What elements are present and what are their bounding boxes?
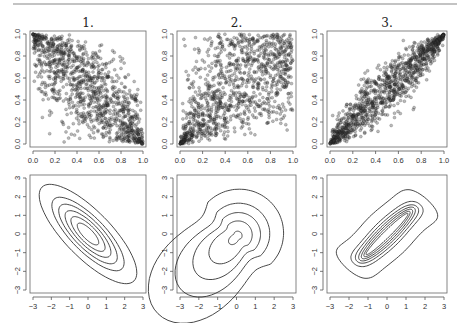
- y-tick-label: 0.0: [13, 139, 22, 149]
- y-tick-label: 0.8: [310, 51, 319, 61]
- x-tick-label: 1: [253, 302, 257, 311]
- x-tick-label: 0.8: [116, 156, 126, 165]
- x-tick-label: 0: [385, 302, 389, 311]
- x-axis: 0.00.20.40.60.81.0: [325, 151, 449, 165]
- plot-frame: [327, 175, 447, 293]
- y-tick-label: 1: [310, 213, 319, 217]
- y-tick-label: 0.8: [160, 51, 169, 61]
- y-axis: −3−2−10123: [13, 176, 26, 294]
- y-tick-label: 0.6: [160, 73, 169, 83]
- x-tick-label: 0.6: [243, 156, 253, 165]
- y-tick-label: −3: [160, 286, 169, 295]
- y-tick-label: −2: [310, 267, 319, 276]
- y-tick-label: 0.0: [310, 139, 319, 149]
- y-tick-label: 0: [13, 232, 22, 236]
- x-tick-label: 2: [272, 302, 276, 311]
- y-tick-label: 0.2: [310, 117, 319, 127]
- plot-frame: [177, 175, 296, 293]
- x-tick-label: 3: [442, 302, 446, 311]
- x-tick-label: 2: [123, 302, 127, 311]
- x-tick-label: 0: [86, 302, 90, 311]
- y-tick-label: 0.4: [310, 95, 319, 105]
- contour-lines: [39, 184, 137, 283]
- y-tick-label: −1: [13, 248, 22, 257]
- y-tick-label: −2: [160, 267, 169, 276]
- y-tick-label: −3: [13, 286, 22, 295]
- y-tick-label: 0: [160, 232, 169, 236]
- y-tick-label: −2: [13, 267, 22, 276]
- x-tick-label: 0.2: [50, 156, 60, 165]
- y-tick-label: −1: [310, 248, 319, 257]
- x-tick-label: 1.0: [288, 156, 298, 165]
- x-tick-label: 0.0: [325, 156, 335, 165]
- x-tick-label: −2: [195, 302, 204, 311]
- x-tick-label: 3: [291, 302, 295, 311]
- y-axis: 0.00.20.40.60.81.0: [160, 29, 173, 149]
- x-tick-label: 0.4: [72, 156, 82, 165]
- x-tick-label: −3: [29, 302, 38, 311]
- figure: 1.0.00.20.40.60.81.00.00.20.40.60.81.02.…: [0, 0, 466, 323]
- y-tick-label: 3: [160, 176, 169, 180]
- scatter-points: [179, 33, 295, 146]
- x-tick-label: −1: [364, 302, 373, 311]
- x-tick-label: 0.0: [28, 156, 38, 165]
- y-tick-label: 0.0: [160, 139, 169, 149]
- panel-title: 2.: [231, 16, 242, 30]
- y-tick-label: 1.0: [310, 29, 319, 39]
- y-tick-label: −3: [310, 286, 319, 295]
- x-tick-label: −2: [47, 302, 56, 311]
- x-tick-label: 3: [141, 302, 145, 311]
- x-axis: −3−2−10123: [29, 297, 145, 311]
- x-tick-label: 0.2: [197, 156, 207, 165]
- scatter-panel-3: 3.0.00.20.40.60.81.00.00.20.40.60.81.0: [310, 16, 449, 165]
- y-tick-label: 0.6: [310, 73, 319, 83]
- x-tick-label: 0.6: [94, 156, 104, 165]
- y-tick-label: 1.0: [160, 29, 169, 39]
- scatter-points: [329, 33, 446, 146]
- y-tick-label: 1: [160, 213, 169, 217]
- plot-frame: [30, 175, 146, 293]
- contour-panel-1: −3−2−10123−3−2−10123: [13, 175, 146, 311]
- contour-panel-2: −3−2−10123−3−2−10123: [148, 175, 296, 323]
- x-axis: 0.00.20.40.60.81.0: [175, 151, 298, 165]
- x-tick-label: 1.0: [138, 156, 148, 165]
- x-tick-label: 0.4: [220, 156, 230, 165]
- y-tick-label: 1: [13, 213, 22, 217]
- x-axis: 0.00.20.40.60.81.0: [28, 151, 148, 165]
- y-axis: 0.00.20.40.60.81.0: [310, 29, 323, 149]
- x-tick-label: 0.8: [265, 156, 275, 165]
- x-tick-label: −1: [65, 302, 74, 311]
- y-axis: 0.00.20.40.60.81.0: [13, 29, 26, 149]
- y-axis: −3−2−10123: [160, 176, 173, 294]
- x-tick-label: 0.0: [175, 156, 185, 165]
- x-tick-label: −3: [326, 302, 335, 311]
- y-tick-label: 0.2: [13, 117, 22, 127]
- x-tick-label: 1: [104, 302, 108, 311]
- x-axis: −3−2−10123: [326, 297, 446, 311]
- x-axis: −3−2−10123: [176, 297, 295, 311]
- scatter-panel-2: 2.0.00.20.40.60.81.00.00.20.40.60.81.0: [160, 16, 298, 165]
- y-tick-label: 0.6: [13, 73, 22, 83]
- contour-panel-3: −3−2−10123−3−2−10123: [310, 175, 447, 311]
- panel-grid: 1.0.00.20.40.60.81.00.00.20.40.60.81.02.…: [13, 16, 449, 323]
- y-tick-label: 3: [310, 176, 319, 180]
- y-tick-label: 0.4: [160, 95, 169, 105]
- scatter-panel-1: 1.0.00.20.40.60.81.00.00.20.40.60.81.0: [13, 16, 148, 165]
- x-tick-label: 0.6: [393, 156, 403, 165]
- panel-title: 3.: [381, 16, 392, 30]
- panel-title: 1.: [82, 16, 93, 30]
- x-tick-label: 1: [404, 302, 408, 311]
- y-tick-label: 2: [13, 195, 22, 199]
- x-tick-label: −3: [176, 302, 185, 311]
- x-tick-label: 0.2: [348, 156, 358, 165]
- x-tick-label: 0: [234, 302, 238, 311]
- y-tick-label: 0.2: [160, 117, 169, 127]
- x-tick-label: 0.8: [416, 156, 426, 165]
- contour-lines: [336, 190, 437, 279]
- y-tick-label: 1.0: [13, 29, 22, 39]
- x-tick-label: 0.4: [370, 156, 380, 165]
- y-tick-label: 2: [310, 195, 319, 199]
- y-tick-label: 3: [13, 176, 22, 180]
- x-tick-label: 1.0: [439, 156, 449, 165]
- y-tick-label: 0: [310, 232, 319, 236]
